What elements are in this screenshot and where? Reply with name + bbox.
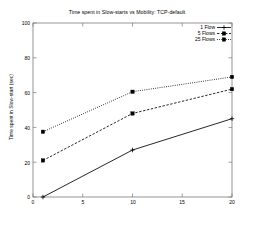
y-tick-label-100: 100 [14, 20, 30, 26]
chart-title: Time spent in Slow-starts vs Mobility: T… [0, 9, 254, 15]
y-tick-label-60: 60 [14, 90, 30, 96]
plot-canvas [0, 0, 254, 225]
y-axis-label: Time spent in Slow-start (sec) [8, 52, 14, 162]
data-point [41, 159, 44, 162]
data-series [41, 75, 234, 199]
chart-figure: Time spent in Slow-starts vs Mobility: T… [0, 0, 254, 225]
y-tick-label-80: 80 [14, 55, 30, 61]
legend-label-25-flows: 25 Flows [181, 36, 215, 42]
series-line [43, 89, 232, 160]
series-1-flow [41, 117, 234, 200]
x-tick-label-20: 20 [224, 199, 240, 205]
series-25-flows [41, 75, 233, 133]
axes [33, 23, 232, 197]
x-tick-label-0: 0 [25, 199, 41, 205]
data-point [230, 75, 233, 78]
y-tick-label-40: 40 [14, 125, 30, 131]
x-tick-label-5: 5 [75, 199, 91, 205]
data-point [131, 90, 134, 93]
legend-marker [222, 32, 225, 35]
series-line [43, 119, 232, 197]
x-tick-label-15: 15 [174, 199, 190, 205]
legend-samples [217, 25, 231, 41]
x-tick-label-10: 10 [125, 199, 141, 205]
legend-marker [222, 38, 225, 41]
data-point [230, 87, 233, 90]
data-point [41, 130, 44, 133]
y-tick-label-20: 20 [14, 160, 30, 166]
series-line [43, 77, 232, 132]
data-point [131, 112, 134, 115]
series-5-flows [41, 87, 233, 162]
plot-frame [33, 23, 232, 197]
